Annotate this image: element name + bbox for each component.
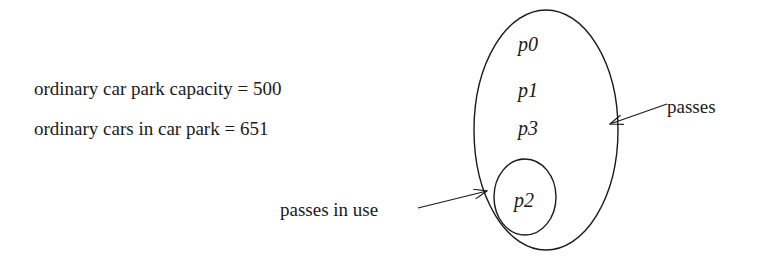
element-p0: p0 (518, 34, 538, 54)
passes-label: passes (667, 97, 716, 116)
passes-in-use-label: passes in use (280, 200, 378, 219)
element-p3: p3 (518, 118, 538, 138)
element-p1: p1 (518, 80, 538, 100)
passes-set-ellipse (474, 10, 618, 250)
passes-arrow (610, 104, 667, 124)
cars-in-park-label: ordinary cars in car park = 651 (34, 119, 268, 138)
element-p2: p2 (514, 190, 534, 210)
capacity-label: ordinary car park capacity = 500 (34, 79, 282, 98)
passes-in-use-arrow (418, 191, 487, 208)
